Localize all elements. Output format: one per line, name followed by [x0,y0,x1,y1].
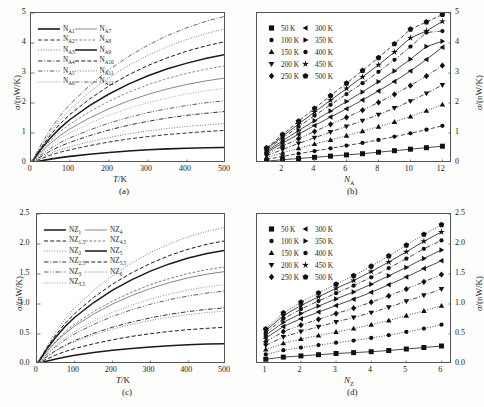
legend-label: 150 K [281,48,299,57]
marker-350 K [387,273,392,279]
legend-marker-swatch [299,260,312,270]
marker-200 K [386,305,392,310]
legend-marker-swatch [265,59,278,69]
legend-label: NZ4.5 [110,236,126,245]
x-tick-label: 3 [333,365,337,374]
marker-350 K [439,247,444,253]
legend-item: 250 K [265,271,299,283]
marker-50 K [312,155,317,160]
marker-100 K [440,124,444,128]
legend-item: 500 K [299,70,333,82]
y-tick-label: 2.5 [19,208,29,217]
marker-450 K [385,258,392,265]
marker-150 K [333,329,339,334]
marker-400 K [344,92,348,96]
marker-150 K [386,318,392,323]
marker-500 K [296,118,302,123]
panel-c: NZ1NZ1.5NZ2NZ2.5NZ3NZ3.5NZ4NZ4.5NZ5NZ5.5… [0,203,241,407]
marker-400 K [387,266,391,270]
marker-350 K [299,311,304,317]
series-NZ_2 [37,311,225,363]
marker-200 K [281,335,287,340]
marker-150 K [404,313,410,318]
y-tick-label: 1.5 [455,268,465,277]
legend-item: 200 K [265,259,299,271]
marker-50 K [369,349,374,354]
panel-d: 50 K100 K150 K200 K250 K300 K350 K400 K4… [241,203,483,407]
panel-a-y-axis-label: σ/(nW/K) [12,75,22,110]
legend-marker-swatch [265,248,278,258]
panel-d-x-axis-label: NZ [344,375,354,387]
legend-item: 350 K [299,34,333,46]
marker-400 K [334,291,338,295]
y-tick-label: 5 [22,7,26,16]
legend-label: NZ2.5 [69,257,85,266]
legend-label: NA2 [63,35,75,44]
legend-label: 500 K [315,72,333,81]
marker-150 K [316,333,322,338]
legend-item: 150 K [265,46,299,58]
x-tick-label: 300 [143,365,155,374]
legend-line-swatch [38,78,60,86]
legend-label: 50 K [281,225,295,234]
legend-marker-swatch [299,35,312,45]
marker-500 K [440,13,446,17]
x-tick-label: 0 [34,365,38,374]
panel-a: NA1NA2NA3NA4NA5NA6NA7NA8NA9NA10NA11NA12 … [0,0,241,200]
legend-line-swatch [75,36,97,44]
marker-500 K [421,231,427,236]
marker-100 K [316,343,320,347]
marker-150 K [439,303,445,308]
legend-line-swatch [85,258,107,266]
marker-100 K [328,146,332,150]
marker-350 K [352,289,357,295]
marker-50 K [360,151,365,156]
marker-100 K [422,326,426,330]
marker-250 K [369,299,374,305]
marker-100 K [439,323,443,327]
marker-300 K [376,88,381,94]
legend-label: NA9 [100,46,112,55]
marker-150 K [376,124,382,129]
legend-label: NA7 [100,25,112,34]
marker-450 K [403,248,410,255]
legend-marker-swatch [299,248,312,258]
y-tick-label: 0 [22,157,26,166]
legend-marker-swatch [265,236,278,246]
marker-400 K [422,247,426,251]
legend-item: NA2 [38,35,75,46]
legend-item: 200 K [265,58,299,70]
marker-500 K [298,299,304,304]
marker-400 K [404,257,408,261]
marker-400 K [351,284,355,288]
marker-500 K [408,26,414,31]
y-tick-label: 2.5 [455,208,465,217]
legend-item: NA12 [75,77,114,88]
series-200 K [267,85,443,156]
marker-250 K [312,128,317,134]
legend-item: NA9 [75,45,114,56]
marker-350 K [313,118,318,124]
legend-marker-swatch [265,260,278,270]
legend-line-swatch [44,279,66,287]
legend-label: NA8 [100,35,112,44]
marker-50 K [440,144,445,149]
legend-label: 100 K [281,237,299,246]
marker-350 K [422,256,427,262]
panel-a-x-axis-label: T/K [113,174,127,184]
y-tick-label: 2.0 [19,238,29,247]
legend-item: NZ2.5 [44,257,85,268]
marker-250 K [392,91,397,97]
marker-50 K [421,345,426,350]
legend-marker-swatch [265,71,278,81]
marker-350 K [360,89,365,95]
panel-c-legend: NZ1NZ1.5NZ2NZ2.5NZ3NZ3.5NZ4NZ4.5NZ5NZ5.5… [44,225,126,288]
legend-item: NZ6 [85,267,126,278]
legend-label: 150 K [281,249,299,258]
panel-d-label: (d) [347,387,358,397]
x-tick-label: 12 [437,164,445,173]
panel-b-x-axis-label: NA [344,174,354,186]
panel-c-x-axis-label: T/K [116,375,130,385]
marker-150 K [421,308,427,313]
marker-200 K [351,316,357,321]
